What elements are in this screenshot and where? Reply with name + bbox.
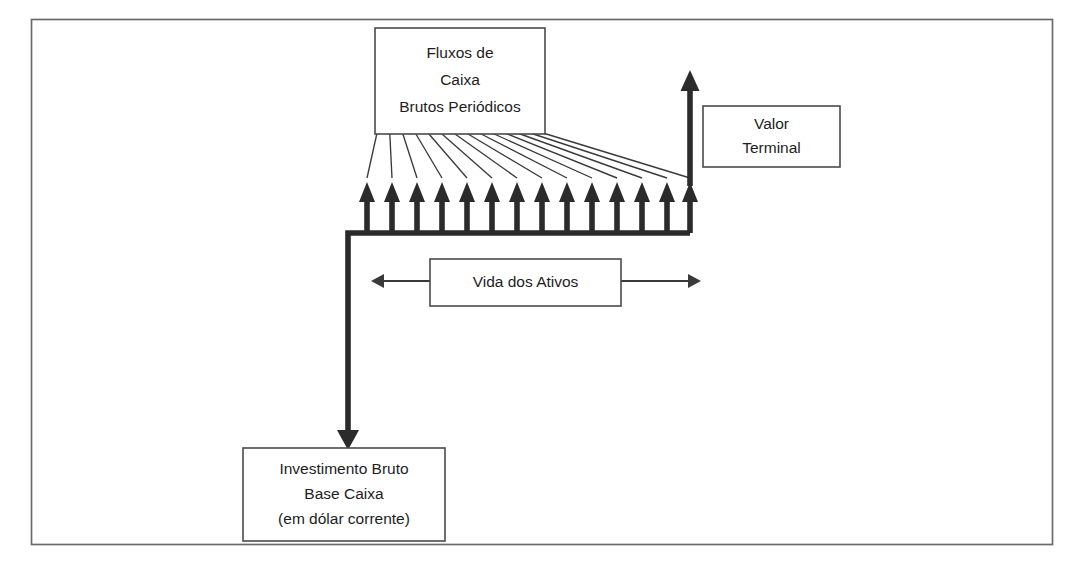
box-terminal-value-line-2: Terminal bbox=[742, 139, 801, 156]
box-gross-cash-flows-line-1: Fluxos de bbox=[426, 44, 493, 61]
box-gross-cash-flows-line-3: Brutos Periódicos bbox=[399, 98, 521, 115]
box-terminal-value-line-1: Valor bbox=[754, 115, 789, 132]
box-gross-investment-line-2: Base Caixa bbox=[304, 485, 384, 502]
box-terminal-value: Valor Terminal bbox=[703, 106, 840, 167]
diagram-canvas: Fluxos de Caixa Brutos Periódicos Valor … bbox=[0, 0, 1077, 569]
box-gross-investment-line-1: Investimento Bruto bbox=[279, 460, 408, 477]
diagram-root: Fluxos de Caixa Brutos Periódicos Valor … bbox=[0, 0, 1077, 569]
box-gross-cash-flows: Fluxos de Caixa Brutos Periódicos bbox=[375, 28, 545, 134]
box-asset-life: Vida dos Ativos bbox=[430, 259, 621, 306]
box-gross-investment: Investimento Bruto Base Caixa (em dólar … bbox=[243, 448, 445, 541]
box-asset-life-line-1: Vida dos Ativos bbox=[473, 273, 579, 290]
box-gross-cash-flows-line-2: Caixa bbox=[440, 71, 480, 88]
box-gross-investment-line-3: (em dólar corrente) bbox=[278, 510, 410, 527]
